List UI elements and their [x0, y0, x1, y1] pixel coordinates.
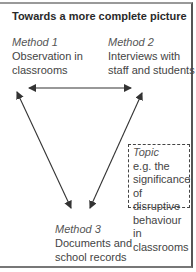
arrow-method3-method1	[17, 92, 71, 208]
arrows-layer	[0, 0, 196, 272]
arrow-method3-method2	[90, 93, 142, 208]
